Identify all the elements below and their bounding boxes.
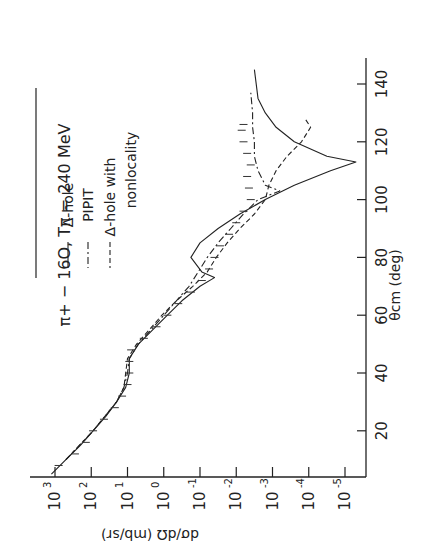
svg-text:2: 2 xyxy=(78,482,89,488)
y-tick-label: 10-3 xyxy=(259,478,282,511)
cross-section-chart: 2040608010012014010310210110010-110-210-… xyxy=(0,0,429,559)
svg-text:10: 10 xyxy=(300,491,318,510)
axes: 2040608010012014010310210110010-110-210-… xyxy=(30,58,403,543)
svg-text:10: 10 xyxy=(119,491,137,510)
svg-text:10: 10 xyxy=(82,491,100,510)
svg-text:0: 0 xyxy=(150,482,161,488)
svg-text:10: 10 xyxy=(264,491,282,510)
legend-label: Δ-hole xyxy=(60,183,76,228)
curves xyxy=(51,70,356,475)
y-tick-label: 101 xyxy=(114,482,137,511)
x-tick-label: 140 xyxy=(373,70,391,99)
x-tick-label: 20 xyxy=(373,421,391,440)
svg-text:-1: -1 xyxy=(187,478,198,488)
svg-text:3: 3 xyxy=(42,482,53,488)
y-tick-label: 10-2 xyxy=(223,478,246,511)
x-tick-label: 40 xyxy=(373,363,391,382)
data-points xyxy=(55,124,255,465)
y-tick-label: 102 xyxy=(78,482,101,511)
svg-text:-5: -5 xyxy=(332,478,343,488)
y-tick-label: 100 xyxy=(150,482,173,511)
legend: π+ − 16O, Tπ = 240 MeVΔ-holePIPITΔ-hole … xyxy=(36,88,139,326)
svg-text:10: 10 xyxy=(46,491,64,510)
legend-label: Δ-hole with xyxy=(102,158,118,237)
x-tick-label: 120 xyxy=(373,127,391,156)
x-axis-title: θcm (deg) xyxy=(387,249,403,321)
x-tick-label: 100 xyxy=(373,185,391,214)
y-tick-label: 103 xyxy=(42,482,65,511)
svg-text:10: 10 xyxy=(336,491,354,510)
y-tick-label: 10-1 xyxy=(187,478,210,511)
svg-text:-3: -3 xyxy=(259,478,270,488)
svg-text:-2: -2 xyxy=(223,478,234,488)
svg-text:10: 10 xyxy=(227,491,245,510)
svg-text:10: 10 xyxy=(191,491,209,510)
curve-dash-dot xyxy=(66,93,280,460)
svg-text:-4: -4 xyxy=(295,478,306,488)
y-tick-label: 10-4 xyxy=(295,478,318,511)
curve-solid xyxy=(51,70,356,475)
legend-label: PIPIT xyxy=(80,188,96,222)
y-axis-title: dσ/dΩ (mb/sr) xyxy=(101,527,199,543)
svg-text:10: 10 xyxy=(155,491,173,510)
legend-label: nonlocality xyxy=(123,132,139,209)
svg-text:1: 1 xyxy=(114,482,125,488)
y-tick-label: 10-5 xyxy=(332,478,355,511)
